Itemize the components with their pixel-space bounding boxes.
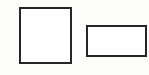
square-shape (19, 7, 72, 64)
drawing-canvas (0, 0, 149, 75)
rectangle-shape (86, 25, 147, 57)
